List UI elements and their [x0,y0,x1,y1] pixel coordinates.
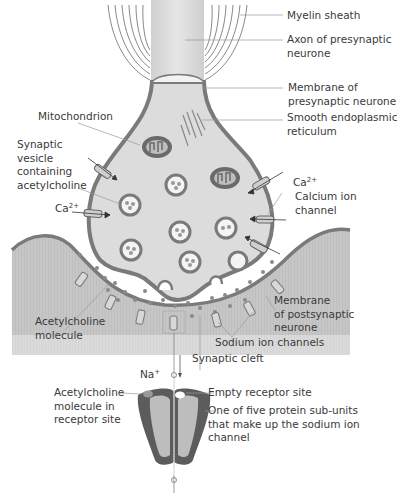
na-text: Na [140,368,154,380]
label-presynaptic-membrane: Membrane of presynaptic neurone [288,81,396,108]
label-pre-membrane-line1: Membrane of [288,81,396,95]
label-mitochondrion: Mitochondrion [38,110,113,124]
label-calcium-channel: Calcium ion channel [295,190,357,217]
label-ca-left: Ca2+ [55,200,79,216]
label-axon-line2: neurone [287,47,391,61]
label-ach-line2: molecule [35,329,105,343]
label-vesicle-line1: Synaptic [17,138,87,152]
label-axon-line1: Axon of presynaptic [287,33,391,47]
label-vesicle-line2: vesicle [17,152,87,166]
label-ca-right: Ca2+ [293,174,317,190]
mitochondrion [210,167,240,189]
mitochondrion [142,136,172,158]
label-axon: Axon of presynaptic neurone [287,33,391,60]
label-ca-channel-line1: Calcium ion [295,190,357,204]
label-synaptic-cleft: Synaptic cleft [192,352,264,366]
label-subunit-line2: that make up the sodium ion [208,418,360,432]
label-ca-channel-line2: channel [295,204,357,218]
label-myelin-sheath: Myelin sheath [287,9,360,23]
label-ach-site-line3: receptor site [54,413,124,427]
label-acetylcholine-molecule: Acetylcholine molecule [35,315,105,342]
label-ach-site-line1: Acetylcholine [54,386,124,400]
label-post-membrane-line2: of postsynaptic [274,308,354,322]
label-post-membrane-line1: Membrane [274,294,354,308]
label-synaptic-vesicle: Synaptic vesicle containing acetylcholin… [17,138,87,192]
label-smooth-er: Smooth endoplasmic reticulum [287,111,397,138]
axon [151,0,204,82]
label-ach-line1: Acetylcholine [35,315,105,329]
ca-left-sup: 2+ [69,202,79,210]
label-ser-line1: Smooth endoplasmic [287,111,397,125]
label-ach-in-receptor: Acetylcholine molecule in receptor site [54,386,124,427]
label-post-membrane-line3: neurone [274,321,354,335]
label-postsynaptic-membrane: Membrane of postsynaptic neurone [274,294,354,335]
label-pre-membrane-line2: presynaptic neurone [288,95,396,109]
label-empty-receptor: Empty receptor site [208,386,312,400]
label-subunit-line3: channel [208,431,360,445]
na-sup: + [154,368,160,376]
ca-right-sup: 2+ [307,176,317,184]
label-vesicle-line4: acetylcholine [17,179,87,193]
label-vesicle-line3: containing [17,165,87,179]
label-subunit-line1: One of five protein sub-units [208,404,360,418]
ca-right-text: Ca [293,176,307,188]
label-subunit: One of five protein sub-units that make … [208,404,360,445]
label-na: Na+ [140,366,160,382]
ca-left-text: Ca [55,202,69,214]
label-sodium-channels: Sodium ion channels [215,336,324,350]
label-ach-site-line2: molecule in [54,400,124,414]
enlarged-sodium-channel [138,372,210,475]
label-ser-line2: reticulum [287,125,397,139]
